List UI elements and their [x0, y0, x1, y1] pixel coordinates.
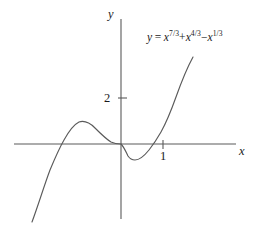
function-graph-figure: y x 2 1 y=x7/3+x4/3−x1/3: [0, 0, 263, 245]
y-axis-label: y: [108, 8, 114, 21]
function-curve: [32, 57, 193, 222]
equation-term2-exponent: 4/3: [191, 29, 201, 38]
graph-canvas: [0, 0, 263, 245]
equation-label: y=x7/3+x4/3−x1/3: [147, 31, 223, 43]
x-tick-label-1: 1: [160, 150, 166, 163]
equation-equals: =: [152, 31, 164, 43]
equation-term1-exponent: 7/3: [169, 29, 179, 38]
equation-plus: +: [179, 31, 186, 43]
y-tick-label-2: 2: [104, 92, 110, 105]
x-axis-label: x: [239, 145, 245, 158]
equation-term3-exponent: 1/3: [213, 29, 223, 38]
